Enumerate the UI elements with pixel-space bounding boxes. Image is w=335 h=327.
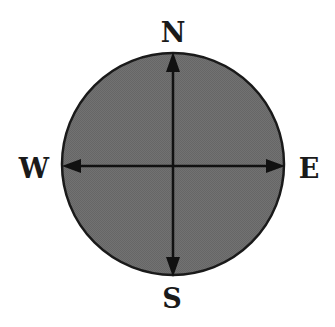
south-label: S: [162, 285, 182, 312]
west-label: W: [19, 155, 49, 182]
north-label: N: [161, 19, 186, 46]
east-label: E: [299, 155, 320, 182]
compass-graphic: [0, 0, 335, 327]
